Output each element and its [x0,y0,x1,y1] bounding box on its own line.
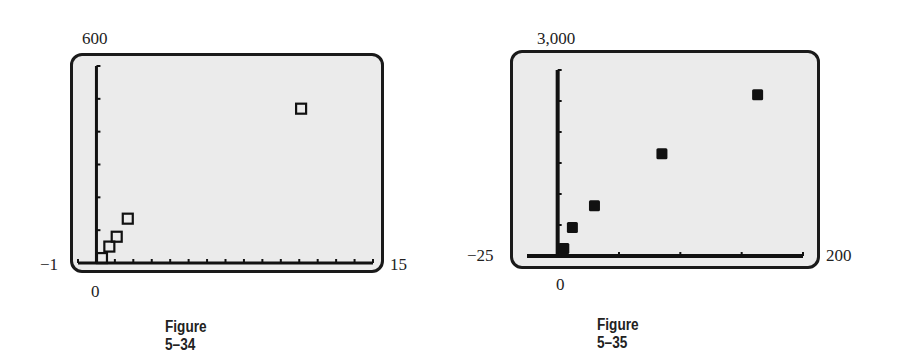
origin-label: 0 [556,275,565,295]
scatter-plot [0,0,901,354]
data-point [567,222,578,233]
data-point [558,243,569,254]
x-max-label: 200 [826,246,852,266]
data-point [656,148,667,159]
data-point [752,89,763,100]
data-point [589,200,600,211]
figure-caption: Figure 5–35 [597,316,639,352]
x-min-label: −25 [467,246,494,266]
